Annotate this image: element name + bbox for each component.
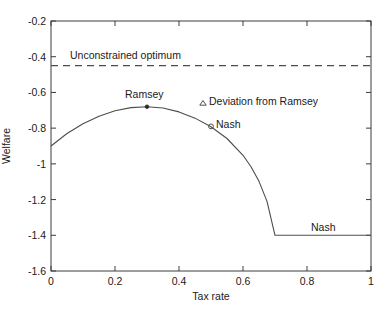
nash-flat-label: Nash [311, 222, 336, 233]
ramsey-label: Ramsey [125, 89, 164, 100]
ytick-label-5: -1.2 [14, 195, 46, 206]
xtick-label-3: 0.6 [231, 276, 255, 287]
nash-curve-label: Nash [216, 119, 241, 130]
ytick-label-2: -0.6 [14, 87, 46, 98]
y-axis-title: Welfare [1, 128, 12, 164]
ytick-label-1: -0.4 [14, 52, 46, 63]
deviation-from-ramsey-legend-label: Deviation from Ramsey [209, 96, 318, 107]
welfare-curve [51, 107, 371, 236]
chart-figure: -0.2 -0.4 -0.6 -0.8 -1 -1.2 -1.4 -1.6 0 … [0, 0, 392, 314]
ytick-label-7: -1.6 [14, 266, 46, 277]
xtick-label-5: 1 [359, 276, 383, 287]
xtick-label-4: 0.8 [295, 276, 319, 287]
ytick-label-3: -0.8 [14, 123, 46, 134]
xtick-label-1: 0.2 [103, 276, 127, 287]
xtick-label-0: 0 [39, 276, 63, 287]
x-axis-title: Tax rate [192, 291, 229, 302]
ytick-label-6: -1.4 [14, 230, 46, 241]
unconstrained-optimum-label: Unconstrained optimum [70, 50, 181, 61]
xtick-label-2: 0.4 [167, 276, 191, 287]
ytick-label-4: -1 [14, 159, 46, 170]
deviation-triangle-icon [200, 101, 206, 106]
ramsey-point-marker [145, 105, 149, 109]
plot-canvas [0, 0, 392, 314]
ytick-label-0: -0.2 [14, 16, 46, 27]
